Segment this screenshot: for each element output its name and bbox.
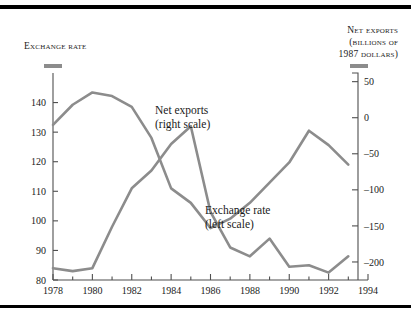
x-axis-tick-label: 1986 bbox=[201, 285, 221, 296]
plot-area: 1401301201101009080500–50–100–150–200197… bbox=[0, 9, 411, 305]
net-exports-annotation-line-1: Net exports bbox=[155, 104, 210, 118]
x-axis-tick-label: 1978 bbox=[43, 285, 63, 296]
exchange-rate-annotation-line-2: (left scale) bbox=[205, 218, 270, 232]
bottom-rule bbox=[0, 305, 411, 308]
right-axis-tick-label: 50 bbox=[364, 76, 374, 87]
exchange-rate-annotation-line-1: Exchange rate bbox=[205, 204, 270, 218]
x-axis-tick-label: 1992 bbox=[319, 285, 339, 296]
right-axis-line bbox=[352, 73, 358, 280]
x-axis-tick-label: 1980 bbox=[82, 285, 102, 296]
x-axis-tick-label: 1994 bbox=[358, 285, 378, 296]
net-exports-annotation-line-2: (right scale) bbox=[155, 118, 210, 132]
exchange-rate-series-line bbox=[53, 126, 348, 272]
exchange-rate-annotation: Exchange rate (left scale) bbox=[205, 204, 270, 231]
left-axis-tick-label: 90 bbox=[36, 245, 46, 256]
x-axis-tick-label: 1990 bbox=[279, 285, 299, 296]
x-axis-tick-label: 1982 bbox=[122, 285, 142, 296]
left-axis-tick-label: 100 bbox=[31, 215, 46, 226]
right-axis-tick-label: –200 bbox=[363, 257, 384, 268]
chart-svg: 1401301201101009080500–50–100–150–200197… bbox=[0, 9, 411, 305]
left-axis-tick-label: 140 bbox=[31, 97, 46, 108]
right-axis-tick-label: 0 bbox=[364, 112, 369, 123]
left-axis-tick-label: 120 bbox=[31, 156, 46, 167]
chart-figure: Exchange rate Net exports (billions of 1… bbox=[0, 0, 411, 323]
net-exports-annotation: Net exports (right scale) bbox=[155, 104, 210, 131]
right-axis-tick-label: –150 bbox=[363, 221, 384, 232]
x-axis-tick-label: 1984 bbox=[161, 285, 181, 296]
x-axis-tick-label: 1988 bbox=[240, 285, 260, 296]
right-axis-tick-label: –50 bbox=[363, 148, 379, 159]
left-axis-tick-label: 110 bbox=[31, 186, 46, 197]
left-axis-tick-label: 80 bbox=[36, 275, 46, 286]
left-axis-tick-label: 130 bbox=[31, 127, 46, 138]
right-axis-tick-label: –100 bbox=[363, 184, 384, 195]
